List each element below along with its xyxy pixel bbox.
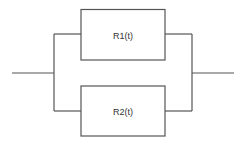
reliability-diagram: R1(t) R2(t) <box>0 0 245 144</box>
block-r2: R2(t) <box>81 86 165 136</box>
block-r2-label: R2(t) <box>113 107 133 117</box>
block-r1-label: R1(t) <box>113 31 133 41</box>
block-r1: R1(t) <box>81 10 165 61</box>
